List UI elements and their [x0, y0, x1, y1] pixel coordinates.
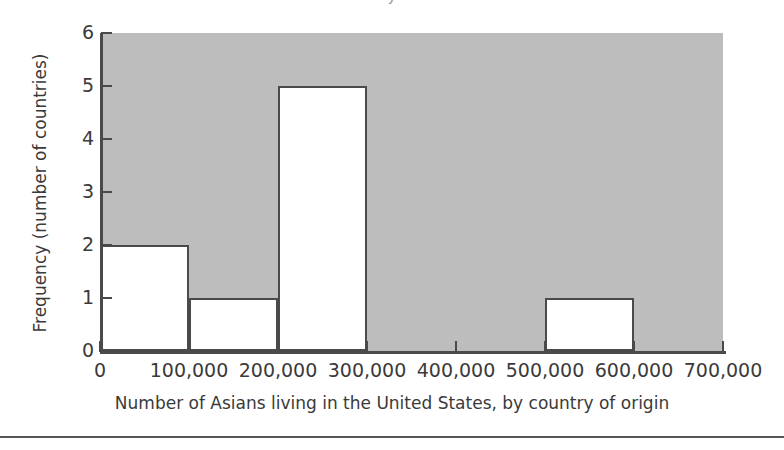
histogram-bar	[100, 245, 189, 351]
x-axis-title: Number of Asians living in the United St…	[0, 393, 784, 413]
x-axis-tick-label: 500,000	[506, 361, 585, 380]
bottom-separator-rule	[0, 436, 784, 438]
y-axis-title: Frequency (number of countries)	[30, 28, 50, 358]
x-axis-tick-label: 0	[94, 361, 106, 380]
histogram-chart: 0123456 0100,000200,000300,000400,000500…	[0, 0, 784, 437]
x-axis-tick-label: 200,000	[239, 361, 318, 380]
x-axis-tick-label: 400,000	[417, 361, 496, 380]
histogram-bar	[545, 298, 634, 351]
x-axis-tick-label: 600,000	[595, 361, 674, 380]
x-axis-tick-label: 100,000	[150, 361, 229, 380]
y-axis-tick-label: 5	[68, 76, 94, 95]
y-axis-tick-label: 3	[68, 182, 94, 201]
histogram-bar	[189, 298, 278, 351]
y-axis-tick-label: 2	[68, 235, 94, 254]
y-axis-tick-label: 4	[68, 129, 94, 148]
y-axis-line	[100, 33, 103, 354]
y-axis-tick-label: 0	[68, 341, 94, 360]
x-axis-line	[100, 351, 726, 354]
x-axis-tick-label: 700,000	[684, 361, 763, 380]
x-axis-tick-label: 300,000	[328, 361, 407, 380]
y-axis-tick-label: 6	[68, 23, 94, 42]
x-axis-tick-labels: 0100,000200,000300,000400,000500,000600,…	[0, 361, 784, 387]
histogram-bar	[278, 86, 367, 351]
y-axis-tick-label: 1	[68, 288, 94, 307]
